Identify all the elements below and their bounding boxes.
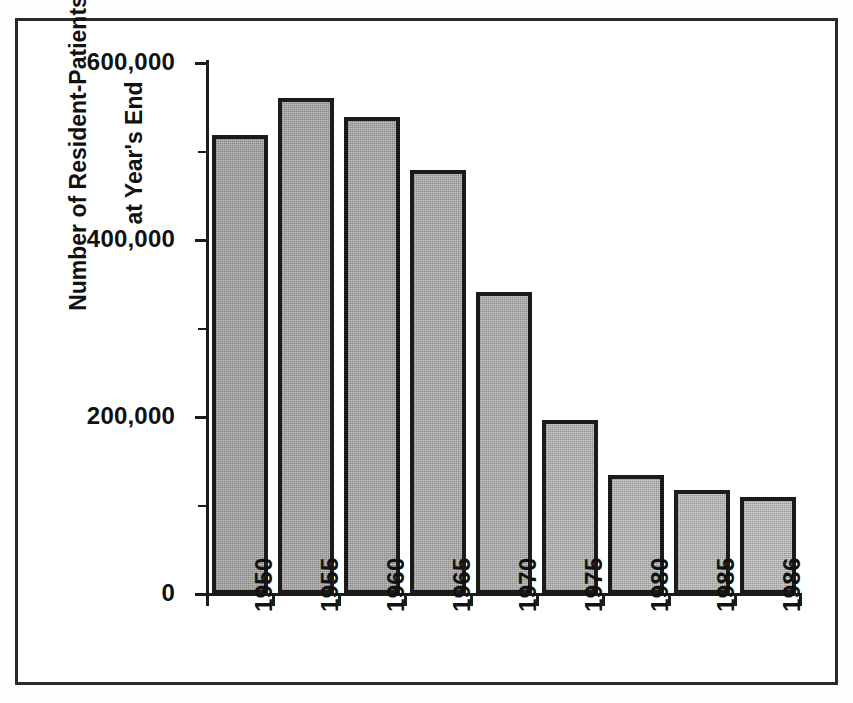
x-tick-label-1960: 1960 (382, 557, 410, 612)
chart-page: Number of Resident-Patients at Year's En… (0, 0, 853, 703)
y-tick-400000 (195, 239, 208, 242)
x-tick-label-1970: 1970 (514, 557, 542, 612)
y-tick-200000 (195, 416, 208, 419)
x-tick-label-1955: 1955 (316, 557, 344, 612)
x-tick-label-1986: 1986 (778, 557, 806, 612)
bar-1950[interactable] (212, 135, 268, 594)
x-tick-label-1975: 1975 (580, 557, 608, 612)
x-tick-label-1985: 1985 (712, 557, 740, 612)
bar-1960[interactable] (344, 117, 400, 594)
bar-1970[interactable] (476, 292, 532, 594)
y-tick-600000 (195, 62, 208, 65)
y-tick-label-600000: 600,000 (55, 50, 175, 74)
chart-plot-area: Number of Resident-Patients at Year's En… (0, 0, 853, 703)
y-minor-tick-100000 (198, 505, 208, 507)
y-tick-label-200000: 200,000 (55, 404, 175, 428)
x-tick-label-1965: 1965 (448, 557, 476, 612)
x-tick-0 (206, 593, 209, 606)
y-tick-label-0: 0 (55, 581, 175, 605)
y-tick-label-400000: 400,000 (55, 227, 175, 251)
y-minor-tick-500000 (198, 151, 208, 153)
x-tick-label-1950: 1950 (250, 557, 278, 612)
x-tick-label-1980: 1980 (646, 557, 674, 612)
bar-1955[interactable] (278, 98, 334, 594)
y-minor-tick-300000 (198, 328, 208, 330)
bar-1965[interactable] (410, 170, 466, 594)
